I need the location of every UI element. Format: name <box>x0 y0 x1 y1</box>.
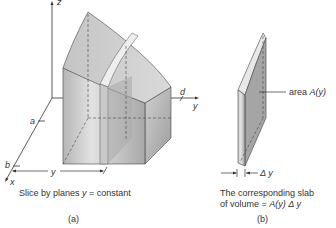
z-axis-arrow-icon <box>51 1 54 5</box>
y-axis-arrow-icon <box>195 97 199 100</box>
figure-a-solid <box>5 1 199 182</box>
y-dimension-label: y <box>50 167 56 177</box>
x-axis-arrow-icon <box>5 178 9 183</box>
x-axis <box>6 98 52 180</box>
y-axis-label: y <box>192 101 198 111</box>
b-label: b <box>5 160 10 170</box>
figure-a-caption: Slice by planes y = constant <box>19 188 131 198</box>
figure-b-caption-line2: of volume = A(y) Δ y <box>220 199 301 209</box>
delta-y-label: Δ y <box>259 168 273 178</box>
figure-b-slab <box>221 33 286 177</box>
figure-a-tag: (a) <box>68 214 79 224</box>
figure-b-tag: (b) <box>257 214 268 224</box>
figure-b-caption-line1: The corresponding slab <box>220 188 314 198</box>
z-axis-label: z <box>56 0 62 7</box>
area-label: area A(y) <box>289 87 326 97</box>
d-label: d <box>180 87 186 97</box>
a-label: a <box>30 116 35 126</box>
volume-by-slicing-figure: z d y a b x y Slice by planes y = consta… <box>0 0 336 228</box>
x-axis-label: x <box>9 177 15 187</box>
